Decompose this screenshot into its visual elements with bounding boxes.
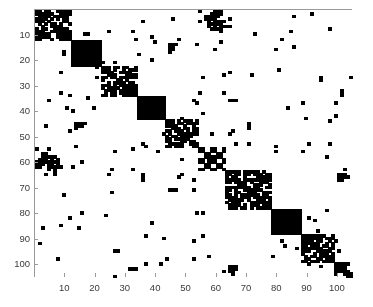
x-tick-mark (155, 273, 156, 277)
y-tick-mark (34, 162, 38, 163)
x-tick-mark (307, 273, 308, 277)
x-tick-mark (276, 273, 277, 277)
y-tick-mark (34, 239, 38, 240)
y-tick-mark (34, 60, 38, 61)
x-tick-mark (337, 273, 338, 277)
y-tick-label: 40 (19, 106, 30, 116)
y-tick-label: 60 (19, 157, 30, 167)
y-tick-label: 50 (19, 132, 30, 142)
y-tick-label: 90 (19, 234, 30, 244)
x-tick-mark (64, 273, 65, 277)
x-tick-mark (185, 273, 186, 277)
matrix-sparsity-canvas (35, 10, 353, 278)
y-tick-label: 20 (19, 55, 30, 65)
x-tick-label: 100 (317, 283, 357, 293)
y-tick-mark (34, 264, 38, 265)
y-tick-mark (34, 35, 38, 36)
y-tick-mark (34, 111, 38, 112)
y-tick-label: 30 (19, 81, 30, 91)
y-tick-mark (34, 86, 38, 87)
spy-plot-figure: 102030405060708090100 102030405060708090… (0, 0, 373, 307)
y-tick-mark (34, 137, 38, 138)
y-tick-mark (34, 213, 38, 214)
y-tick-label: 100 (14, 259, 30, 269)
y-tick-label: 70 (19, 183, 30, 193)
y-tick-mark (34, 188, 38, 189)
x-tick-mark (125, 273, 126, 277)
plot-area (34, 9, 352, 277)
x-tick-mark (216, 273, 217, 277)
x-tick-mark (246, 273, 247, 277)
y-tick-label: 80 (19, 208, 30, 218)
y-tick-label: 10 (19, 30, 30, 40)
x-tick-mark (95, 273, 96, 277)
